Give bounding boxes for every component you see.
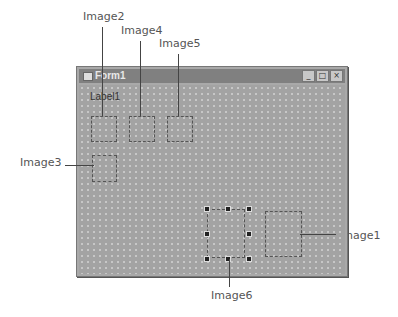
resize-handle[interactable] xyxy=(204,231,210,237)
form-window[interactable]: Form1 _ □ × Label1 xyxy=(76,66,348,277)
callout-image6: Image6 xyxy=(211,289,252,302)
resize-handle[interactable] xyxy=(246,256,252,262)
image4[interactable] xyxy=(129,116,155,142)
image5[interactable] xyxy=(167,116,193,142)
callout-image2: Image2 xyxy=(83,10,124,23)
label1[interactable]: Label1 xyxy=(90,91,120,102)
leader-line-image3 xyxy=(65,165,94,166)
image1[interactable] xyxy=(265,211,302,257)
image3[interactable] xyxy=(92,155,117,182)
form-client-area[interactable]: Label1 xyxy=(79,85,345,274)
resize-handle[interactable] xyxy=(204,206,210,212)
resize-handle[interactable] xyxy=(204,256,210,262)
image2[interactable] xyxy=(91,116,117,142)
resize-handle[interactable] xyxy=(246,206,252,212)
window-icon xyxy=(83,72,93,81)
window-title: Form1 xyxy=(95,70,126,81)
resize-handle[interactable] xyxy=(225,256,231,262)
leader-line-image6 xyxy=(229,259,230,287)
callout-image4: Image4 xyxy=(121,24,162,37)
minimize-button[interactable]: _ xyxy=(302,70,315,82)
leader-line-image2 xyxy=(102,27,103,116)
leader-line-image1 xyxy=(300,234,336,235)
maximize-button[interactable]: □ xyxy=(316,70,329,82)
leader-line-image4 xyxy=(140,41,141,116)
title-bar[interactable]: Form1 _ □ × xyxy=(79,69,345,83)
callout-image5: Image5 xyxy=(159,37,200,50)
leader-line-image5 xyxy=(178,54,179,116)
image6[interactable] xyxy=(207,209,245,258)
callout-image3: Image3 xyxy=(20,156,61,169)
resize-handle[interactable] xyxy=(225,206,231,212)
resize-handle[interactable] xyxy=(246,231,252,237)
close-button[interactable]: × xyxy=(330,70,343,82)
